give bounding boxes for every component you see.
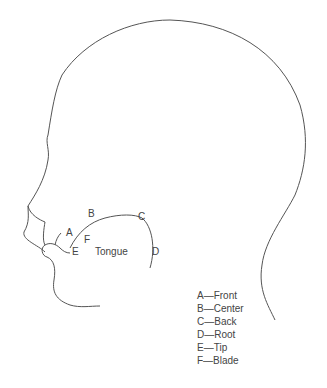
point-label-c: C xyxy=(138,212,145,222)
legend-name: Front xyxy=(214,290,237,301)
legend-item-tip: E—Tip xyxy=(197,341,244,354)
head-outline xyxy=(24,20,306,320)
legend-name: Back xyxy=(214,316,236,327)
legend-name: Center xyxy=(214,303,244,314)
point-label-f: F xyxy=(84,235,90,245)
legend-item-center: B—Center xyxy=(197,302,244,315)
legend: A—Front B—Center C—Back D—Root E—Tip F—B… xyxy=(197,289,244,367)
upper-lip xyxy=(28,206,45,245)
tongue-curve xyxy=(70,215,153,268)
point-label-a: A xyxy=(66,228,73,238)
legend-dash: — xyxy=(204,342,214,353)
legend-dash: — xyxy=(204,329,214,340)
legend-name: Blade xyxy=(213,355,239,366)
legend-letter: E xyxy=(197,342,204,353)
head-profile-drawing xyxy=(0,0,327,388)
legend-dash: — xyxy=(203,355,213,366)
legend-letter: B xyxy=(197,303,204,314)
lip-to-tip xyxy=(45,244,70,253)
legend-dash: — xyxy=(204,290,214,301)
point-label-b: B xyxy=(88,209,95,219)
legend-item-front: A—Front xyxy=(197,289,244,302)
legend-dash: — xyxy=(204,303,214,314)
tongue-label: Tongue xyxy=(95,247,128,257)
legend-item-blade: F—Blade xyxy=(197,354,244,367)
legend-name: Root xyxy=(214,329,235,340)
point-label-d: D xyxy=(152,247,159,257)
point-label-e: E xyxy=(72,247,79,257)
upper-teeth xyxy=(55,233,61,245)
legend-name: Tip xyxy=(214,342,228,353)
legend-dash: — xyxy=(204,316,214,327)
legend-item-back: C—Back xyxy=(197,315,244,328)
legend-item-root: D—Root xyxy=(197,328,244,341)
legend-letter: A xyxy=(197,290,204,301)
